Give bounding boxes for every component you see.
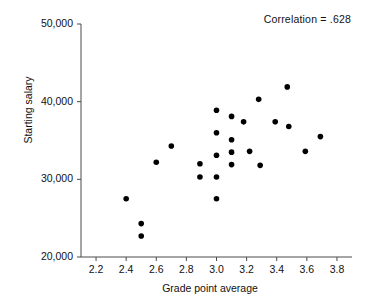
data-point — [153, 159, 159, 165]
data-point — [197, 161, 203, 167]
data-point — [214, 196, 220, 202]
plot-canvas — [0, 0, 365, 304]
data-point — [214, 174, 220, 180]
data-point — [197, 174, 203, 180]
data-point — [169, 143, 175, 149]
data-point — [286, 124, 292, 130]
data-point — [229, 149, 235, 155]
data-point — [241, 119, 247, 125]
data-point — [229, 162, 235, 168]
data-point — [247, 149, 253, 155]
axes — [77, 24, 352, 261]
data-points — [123, 84, 323, 239]
scatter-plot-figure: Correlation = .628 Starting salary Grade… — [0, 0, 365, 304]
data-point — [123, 196, 129, 202]
data-point — [214, 152, 220, 158]
data-point — [138, 233, 144, 239]
data-point — [214, 130, 220, 136]
data-point — [138, 221, 144, 227]
data-point — [318, 134, 324, 140]
data-point — [229, 137, 235, 143]
data-point — [229, 114, 235, 120]
data-point — [284, 84, 290, 90]
data-point — [256, 97, 262, 103]
data-point — [257, 163, 263, 169]
data-point — [303, 149, 309, 155]
data-point — [214, 107, 220, 113]
data-point — [272, 119, 278, 125]
